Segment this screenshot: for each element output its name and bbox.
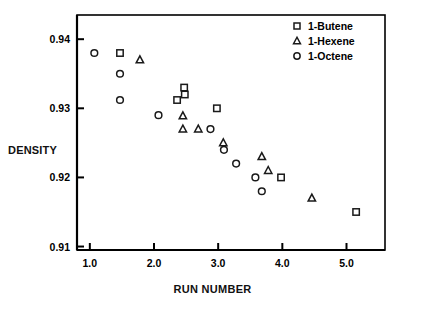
- y-tick-label: 0.93: [20, 102, 70, 114]
- x-tick-label: 4.0: [275, 257, 290, 269]
- scatter-chart-figure: DENSITY RUN NUMBER 0.910.920.930.941.02.…: [0, 0, 425, 310]
- y-tick-label: 0.94: [20, 33, 70, 45]
- x-tick-label: 5.0: [339, 257, 354, 269]
- y-tick-label: 0.92: [20, 171, 70, 183]
- x-axis-title: RUN NUMBER: [0, 283, 425, 295]
- legend-label-1-butene: 1-Butene: [308, 20, 353, 32]
- x-tick-label: 1.0: [83, 257, 98, 269]
- legend-label-1-octene: 1-Octene: [308, 50, 353, 62]
- legend-label-1-hexene: 1-Hexene: [308, 35, 355, 47]
- x-tick-label: 2.0: [147, 257, 162, 269]
- y-tick-label: 0.91: [20, 241, 70, 253]
- y-axis-title: DENSITY: [8, 144, 57, 156]
- x-tick-label: 3.0: [211, 257, 226, 269]
